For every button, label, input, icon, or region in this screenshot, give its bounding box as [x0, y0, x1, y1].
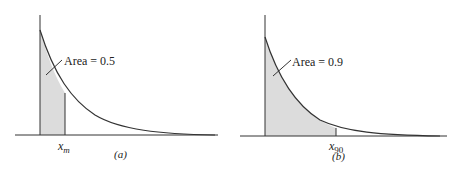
x-marker-a: xm: [57, 139, 70, 155]
area-label-b: Area = 0.9: [292, 55, 343, 69]
panel-b: Area = 0.9 x90 (b): [240, 15, 447, 163]
shaded-area-a: [40, 30, 65, 135]
density-curve-a: [40, 30, 215, 135]
figure: Area = 0.5 xm (a) Area = 0.9 x90 (b): [0, 0, 463, 173]
area-label-a: Area = 0.5: [64, 54, 115, 68]
caption-b: (b): [332, 150, 345, 163]
shaded-area-b: [265, 37, 336, 136]
caption-a: (a): [114, 148, 127, 161]
panel-a: Area = 0.5 xm (a): [15, 15, 218, 161]
